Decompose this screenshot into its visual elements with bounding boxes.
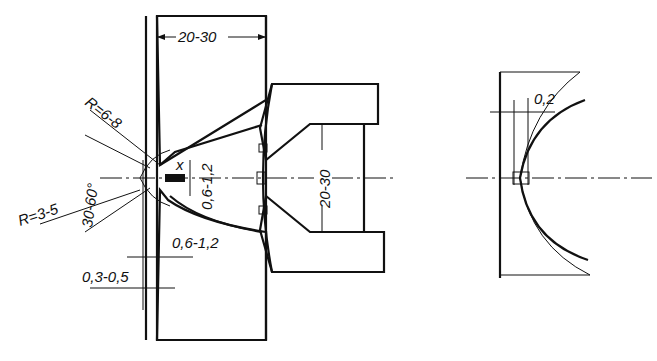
dim-angle: 30-60° <box>78 182 101 228</box>
dim-foil-thickness: 0,3-0,5 <box>82 268 129 285</box>
dim-insert-opening: 20-30 <box>316 169 333 209</box>
dim-offset: 0,2 <box>534 90 556 107</box>
dim-hole-height: 0,6-1,2 <box>198 163 215 210</box>
dim-radius-inner: R=3-5 <box>16 200 61 229</box>
right-view: 0,2 <box>466 72 652 278</box>
dim-gap-x: x <box>175 156 184 173</box>
dim-radius-outer: R=6-8 <box>82 93 126 132</box>
dim-land-width: 0,6-1,2 <box>172 234 219 251</box>
left-view: 20-30 R=6-8 30-60° R=3-5 x 0,6-1,2 0,6-1… <box>16 16 395 340</box>
technical-drawing: 20-30 R=6-8 30-60° R=3-5 x 0,6-1,2 0,6-1… <box>0 0 657 361</box>
dim-plate-thickness: 20-30 <box>177 28 217 45</box>
insert-upper <box>260 84 378 160</box>
plate-lower <box>157 190 266 340</box>
